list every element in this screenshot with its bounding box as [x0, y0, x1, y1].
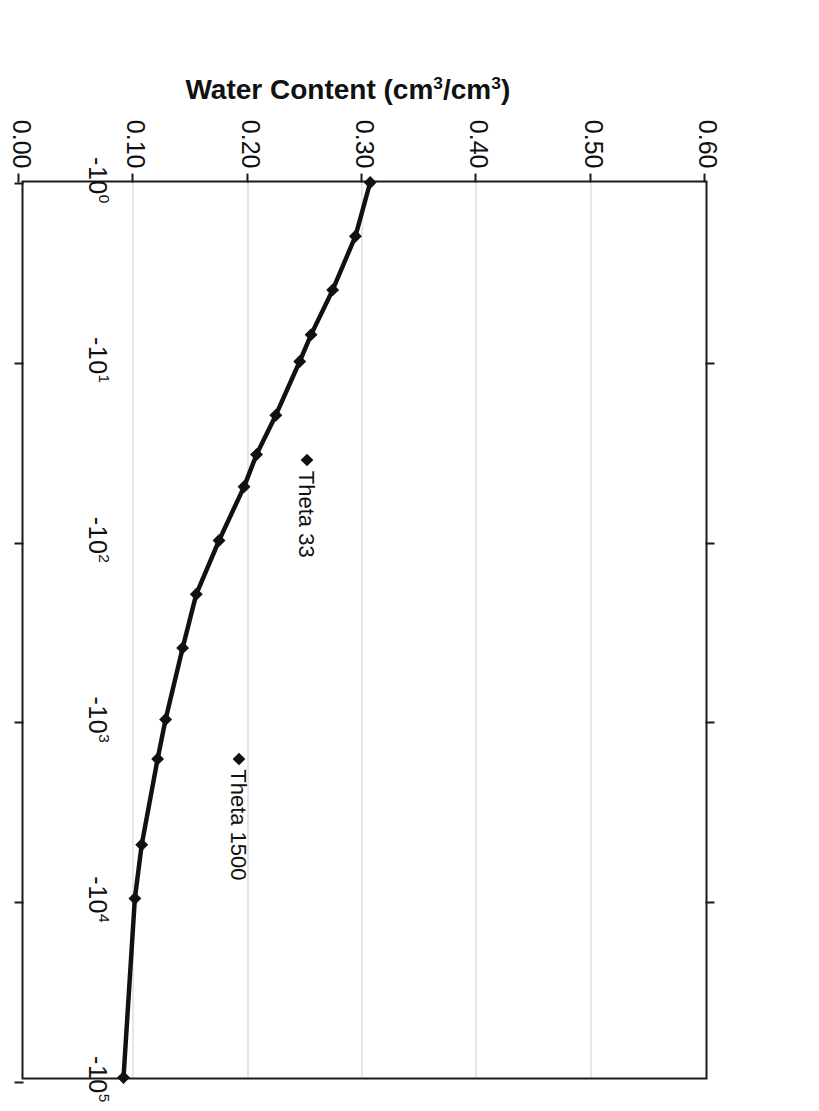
x-axis-tick	[14, 542, 23, 544]
x-tick-base: -10	[84, 876, 112, 914]
y-axis-tick-label: 0.20	[235, 119, 264, 168]
y-axis-tick	[589, 173, 591, 182]
x-tick-base: -10	[84, 516, 112, 554]
x-tick-base: -10	[84, 1056, 112, 1094]
x-tick-exponent: 3	[95, 734, 112, 743]
x-axis-tick	[14, 721, 23, 723]
x-tick-base: -10	[84, 696, 112, 734]
rotated-figure-container: Soil Matric Potential (kPa) Water Conten…	[0, 0, 819, 1111]
x-axis-tick	[14, 901, 23, 903]
x-axis-tick-label: -101	[83, 336, 112, 383]
x-axis-tick	[14, 362, 23, 364]
y-axis-title-sup2: 3	[491, 72, 501, 92]
y-axis-tick-label: 0.50	[578, 119, 607, 168]
y-axis-tick	[474, 173, 476, 182]
x-tick-exponent: 5	[95, 1093, 112, 1102]
x-axis-tick-label: -100	[83, 157, 112, 204]
x-tick-exponent: 1	[95, 374, 112, 383]
y-axis-tick-label: 0.60	[693, 119, 722, 168]
x-tick-exponent: 2	[95, 554, 112, 563]
x-axis-tick-label: -102	[83, 516, 112, 563]
y-axis-title-mid: /cm	[442, 74, 490, 105]
x-tick-exponent: 0	[95, 194, 112, 203]
y-axis-tick	[131, 173, 133, 182]
x-axis-tick-label: -105	[83, 1056, 112, 1103]
x-axis-tick-label: -103	[83, 696, 112, 743]
annotation-label: Theta 1500	[225, 769, 250, 880]
y-axis-tick-label: 0.00	[7, 119, 36, 168]
y-axis-tick	[17, 173, 19, 182]
data-point-marker	[159, 713, 172, 726]
data-series-svg	[23, 182, 705, 1077]
y-axis-title: Water Content (cm3/cm3)	[4, 72, 690, 105]
x-axis-tick-label: -104	[83, 876, 112, 923]
diamond-marker-icon	[232, 752, 245, 765]
y-axis-tick-label: 0.10	[121, 119, 150, 168]
x-axis-tick-top	[705, 542, 714, 544]
data-point-marker	[348, 229, 361, 242]
series-annotation: Theta 33	[293, 455, 320, 557]
y-axis-tick-label: 0.30	[350, 119, 379, 168]
y-axis-tick-label: 0.40	[464, 119, 493, 168]
y-axis-title-tail: )	[500, 74, 509, 105]
retention-curve-line	[123, 182, 370, 1077]
x-axis-tick-top	[705, 901, 714, 903]
data-point-markers-group	[117, 176, 377, 1084]
data-point-marker	[117, 1071, 130, 1084]
series-annotation: Theta 1500	[224, 754, 251, 880]
x-axis-tick-top	[705, 721, 714, 723]
diamond-marker-icon	[301, 453, 314, 466]
data-point-marker	[128, 892, 141, 905]
data-point-marker	[151, 752, 164, 765]
plot-area: Theta 33Theta 1500	[21, 180, 707, 1079]
x-tick-exponent: 4	[95, 913, 112, 922]
data-point-marker	[176, 641, 189, 654]
x-tick-base: -10	[84, 157, 112, 195]
y-axis-tick	[703, 173, 705, 182]
x-tick-base: -10	[84, 336, 112, 374]
y-axis-tick	[246, 173, 248, 182]
data-point-marker	[363, 176, 376, 189]
y-axis-tick	[360, 173, 362, 182]
annotation-label: Theta 33	[294, 470, 319, 557]
y-axis-title-sup1: 3	[433, 72, 443, 92]
y-axis-title-lead: Water Content (cm	[185, 74, 433, 105]
x-axis-tick-top	[705, 362, 714, 364]
data-point-marker	[135, 838, 148, 851]
x-axis-tick	[14, 1081, 23, 1083]
